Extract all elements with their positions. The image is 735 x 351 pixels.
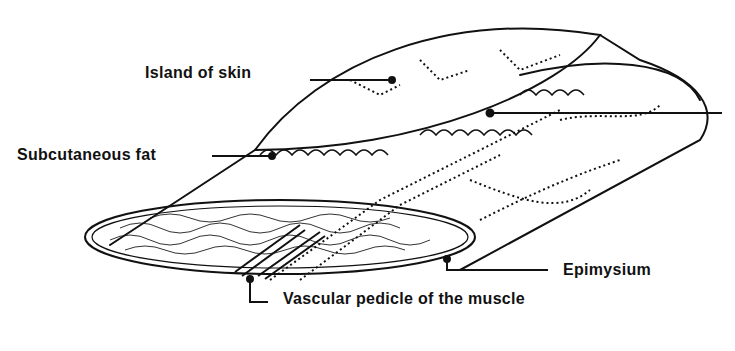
- label-subcutaneous-fat: Subcutaneous fat: [17, 146, 156, 164]
- flap-top-edge: [460, 35, 708, 270]
- label-epimysium: Epimysium: [563, 261, 651, 279]
- flap-body-outline: [110, 150, 255, 245]
- leader-vascular-pedicle: [250, 279, 268, 302]
- fat-lobules: [260, 150, 388, 155]
- label-island-of-skin: Island of skin: [145, 64, 251, 82]
- label-vascular-pedicle: Vascular pedicle of the muscle: [283, 290, 525, 308]
- skin-island-outline: [255, 29, 600, 150]
